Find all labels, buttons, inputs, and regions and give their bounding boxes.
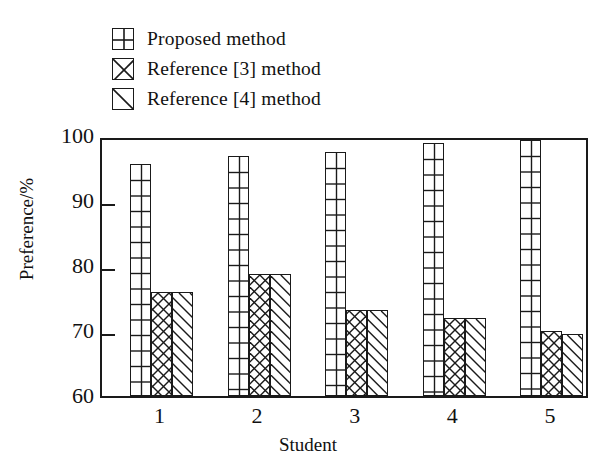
bar bbox=[520, 140, 541, 396]
x-axis-tick-label: 4 bbox=[422, 404, 482, 428]
bar bbox=[562, 334, 583, 396]
y-axis-title: Preference/% bbox=[16, 139, 38, 319]
y-axis-tick-label: 70 bbox=[72, 320, 94, 342]
diagonal-crosshatch-swatch-icon bbox=[112, 58, 134, 80]
bar bbox=[228, 156, 249, 397]
bar bbox=[444, 318, 465, 396]
grid-crosshatch-swatch-icon bbox=[112, 28, 134, 50]
plot-area bbox=[100, 138, 588, 398]
legend-label-reference4-method: Reference [4] method bbox=[147, 88, 321, 110]
chart-figure: Proposed method Reference [3] method Ref… bbox=[0, 0, 616, 470]
x-axis-tick-label: 5 bbox=[520, 404, 580, 428]
bar-group bbox=[423, 140, 486, 396]
y-axis-tick-label: 100 bbox=[61, 125, 94, 147]
legend-item-reference4-method: Reference [4] method bbox=[112, 84, 412, 114]
bar-group bbox=[228, 140, 291, 396]
x-axis-title: Student bbox=[0, 434, 616, 456]
x-axis-tick-label: 2 bbox=[227, 404, 287, 428]
legend-label-reference3-method: Reference [3] method bbox=[147, 58, 321, 80]
bar bbox=[270, 274, 291, 396]
bar bbox=[541, 331, 562, 396]
bar-groups bbox=[102, 140, 586, 396]
bar bbox=[367, 310, 388, 396]
bar bbox=[325, 152, 346, 396]
bar bbox=[346, 310, 367, 396]
bar bbox=[151, 292, 172, 396]
bar-group bbox=[325, 140, 388, 396]
legend-item-reference3-method: Reference [3] method bbox=[112, 54, 412, 84]
bar bbox=[130, 164, 151, 396]
bar-group bbox=[520, 140, 583, 396]
y-axis-tick-label: 90 bbox=[72, 190, 94, 212]
x-axis-tick-label: 1 bbox=[130, 404, 190, 428]
legend-item-proposed-method: Proposed method bbox=[112, 24, 412, 54]
bar bbox=[249, 274, 270, 396]
x-axis-tick-label: 3 bbox=[325, 404, 385, 428]
bar bbox=[465, 318, 486, 396]
diagonal-single-swatch-icon bbox=[112, 88, 134, 110]
y-axis-tick-labels: 60708090100 bbox=[34, 0, 94, 470]
bar bbox=[423, 143, 444, 397]
chart-legend: Proposed method Reference [3] method Ref… bbox=[112, 24, 412, 114]
y-axis-tick-label: 80 bbox=[72, 255, 94, 277]
bar-group bbox=[130, 140, 193, 396]
legend-label-proposed-method: Proposed method bbox=[147, 28, 286, 50]
bar bbox=[172, 292, 193, 396]
y-axis-tick-label: 60 bbox=[72, 385, 94, 407]
